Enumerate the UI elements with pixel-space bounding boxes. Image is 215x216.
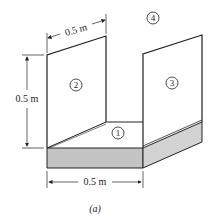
svg-text:3: 3	[170, 78, 175, 88]
height-dimension: 0.5 m	[16, 55, 44, 148]
svg-text:0.5 m: 0.5 m	[16, 93, 39, 104]
surface-label-2: 2	[70, 79, 82, 91]
svg-text:0.5 m: 0.5 m	[84, 176, 107, 187]
figure-caption: (a)	[89, 203, 101, 215]
surface-label-3: 3	[166, 77, 178, 89]
svg-text:0.5 m: 0.5 m	[63, 21, 88, 38]
top-width-dimension: 0.5 m	[47, 14, 106, 53]
left-wall-surface-2	[47, 36, 106, 148]
surface-label-1: 1	[112, 127, 124, 139]
floor-surface-1	[47, 122, 143, 148]
base-slab	[47, 120, 202, 168]
svg-text:2: 2	[74, 80, 79, 90]
svg-text:4: 4	[151, 13, 156, 23]
svg-text:1: 1	[116, 128, 121, 138]
surface-label-4: 4	[147, 12, 159, 24]
bottom-width-dimension: 0.5 m	[47, 171, 143, 188]
enclosure-diagram: 1 2 3 4 0.5 m 0.5 m 0.5 m (a)	[0, 0, 215, 216]
